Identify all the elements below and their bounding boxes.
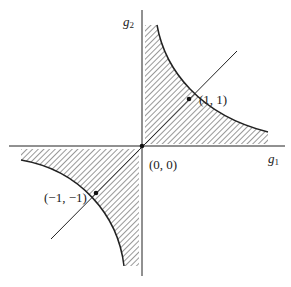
point-neg1-neg1 bbox=[94, 191, 99, 196]
x-axis-label: g1 bbox=[268, 151, 279, 167]
point-1-1 bbox=[187, 97, 192, 102]
point-label-origin: (0, 0) bbox=[149, 157, 177, 172]
point-origin bbox=[140, 144, 145, 149]
point-label-1-1: (1, 1) bbox=[199, 92, 227, 107]
y-axis-label: g2 bbox=[123, 14, 134, 30]
point-label-neg1-neg1: (−1, −1) bbox=[44, 190, 87, 205]
diagram: (1, 1) (0, 0) (−1, −1) g1 g2 bbox=[0, 0, 291, 287]
